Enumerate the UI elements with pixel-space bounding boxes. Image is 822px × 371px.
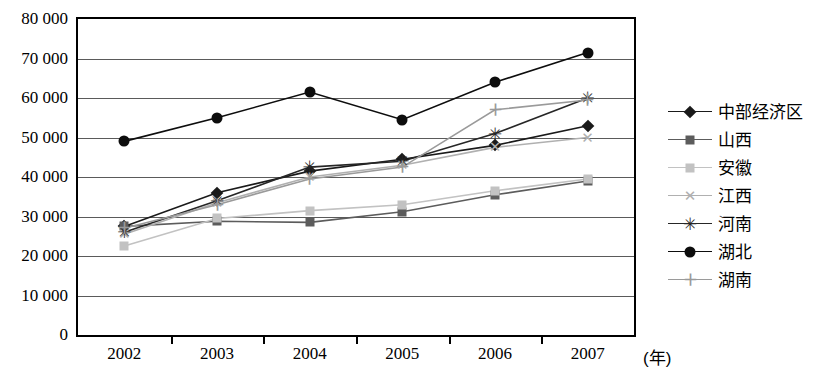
y-axis-tick-label: 80 000	[0, 9, 68, 29]
legend-marker-diamond-icon	[668, 102, 712, 122]
data-point	[490, 77, 501, 88]
chart-legend: 中部经济区山西安徽✕江西✳河南湖北＋湖南	[668, 98, 818, 294]
data-point	[305, 218, 314, 227]
data-point: ✳	[488, 125, 502, 142]
data-point	[398, 200, 407, 209]
x-axis-tick-label: 2005	[385, 344, 419, 364]
legend-marker-square-icon	[668, 130, 712, 150]
data-point	[120, 242, 129, 251]
legend-label: 湖北	[718, 244, 752, 261]
legend-label: 中部经济区	[718, 104, 803, 121]
legend-marker-circle-icon	[668, 242, 712, 262]
legend-marker-plus-icon: ＋	[668, 270, 712, 290]
series-line	[124, 179, 587, 246]
series-lines	[78, 19, 634, 335]
legend-marker-x-icon: ✕	[668, 186, 712, 206]
x-axis-tick-mark	[541, 337, 543, 344]
x-axis-tick-mark	[171, 337, 173, 344]
x-axis-tick-label: 2003	[200, 344, 234, 364]
x-axis-tick-mark	[356, 337, 358, 344]
x-axis-tick-label: 2007	[571, 344, 605, 364]
y-axis-tick-label: 50 000	[0, 128, 68, 148]
data-point: ＋	[117, 221, 132, 236]
y-axis-tick-label: 10 000	[0, 286, 68, 306]
legend-label: 湖南	[718, 272, 752, 289]
data-point: ＋	[488, 102, 503, 117]
data-point	[119, 136, 130, 147]
y-axis-tick-label: 30 000	[0, 207, 68, 227]
y-axis-tick-label: 20 000	[0, 246, 68, 266]
plot-area: ✕✕✕✕✕✕✳✳✳✳✳✳＋＋＋＋＋＋	[76, 17, 636, 337]
legend-label: 山西	[718, 132, 752, 149]
data-point	[397, 114, 408, 125]
legend-item[interactable]: 中部经济区	[668, 98, 818, 126]
series-line	[124, 53, 587, 142]
data-point	[491, 186, 500, 195]
legend-item[interactable]: ＋湖南	[668, 266, 818, 294]
y-axis-tick-label: 60 000	[0, 88, 68, 108]
data-point	[212, 112, 223, 123]
x-axis-tick-label: 2006	[478, 344, 512, 364]
y-axis-tick-label: 40 000	[0, 167, 68, 187]
x-axis-tick-mark	[449, 337, 451, 344]
legend-item[interactable]: ✳河南	[668, 210, 818, 238]
y-axis-tick-label: 0	[0, 325, 68, 345]
legend-label: 安徽	[718, 160, 752, 177]
data-point	[213, 214, 222, 223]
y-axis-tick-label: 70 000	[0, 49, 68, 69]
data-point	[304, 87, 315, 98]
data-point: ＋	[302, 171, 317, 186]
x-axis-tick-label: 2002	[107, 344, 141, 364]
data-point: ✕	[581, 130, 594, 145]
legend-item[interactable]: 湖北	[668, 238, 818, 266]
data-point: ＋	[210, 197, 225, 212]
x-axis-tick-mark	[263, 337, 265, 344]
x-axis-unit-label: (年)	[643, 344, 671, 369]
legend-label: 江西	[718, 188, 752, 205]
legend-marker-square-icon	[668, 158, 712, 178]
legend-item[interactable]: ✕江西	[668, 182, 818, 210]
series-line	[124, 138, 587, 235]
legend-item[interactable]: 山西	[668, 126, 818, 154]
data-point: ＋	[395, 160, 410, 175]
data-point	[582, 47, 593, 58]
data-point: ＋	[580, 92, 595, 107]
legend-label: 河南	[718, 216, 752, 233]
legend-marker-star-icon: ✳	[668, 214, 712, 234]
chart-root: 80 00070 00060 00050 00040 00030 00020 0…	[0, 0, 822, 371]
data-point	[583, 174, 592, 183]
data-point	[305, 206, 314, 215]
legend-item[interactable]: 安徽	[668, 154, 818, 182]
x-axis-tick-label: 2004	[293, 344, 327, 364]
